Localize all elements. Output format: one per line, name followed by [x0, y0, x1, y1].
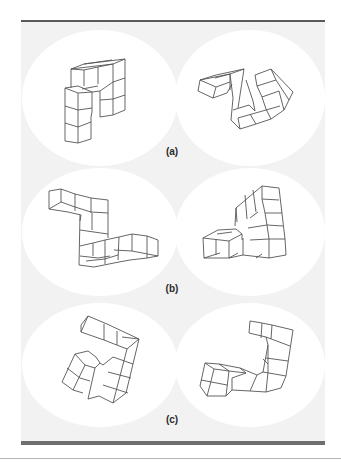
circle-b-left — [22, 168, 178, 296]
circle-c-left — [22, 303, 178, 427]
label-pair-a: (a) — [152, 146, 192, 157]
label-pair-b: (b) — [152, 283, 192, 294]
bottom-rule — [21, 441, 325, 445]
figure-drawing — [0, 0, 341, 472]
circle-backgrounds — [22, 30, 325, 427]
page-separator — [0, 458, 341, 459]
circle-b-right — [175, 168, 325, 296]
circle-a-right — [175, 30, 325, 166]
label-pair-c: (c) — [152, 414, 192, 425]
